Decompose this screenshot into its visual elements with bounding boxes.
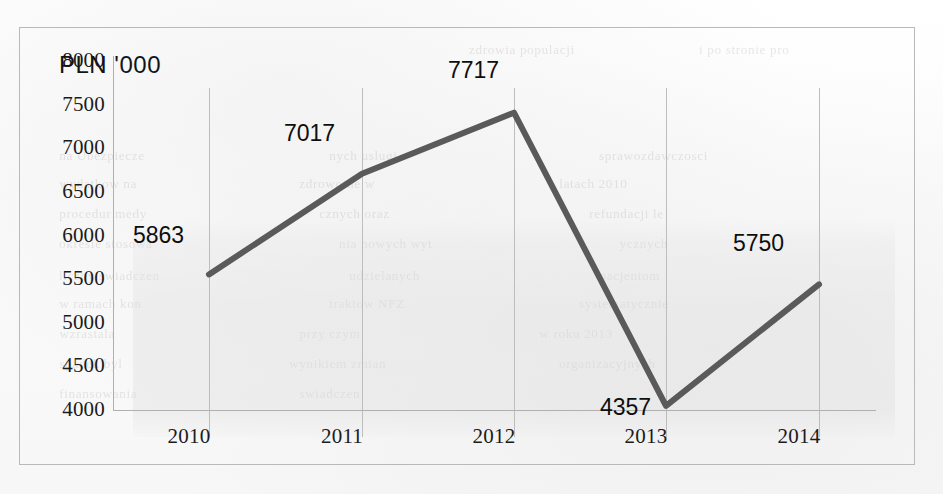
x-tick-label: 2010 (168, 424, 211, 449)
x-tick-label: 2013 (625, 424, 668, 449)
data-point-label: 4357 (600, 394, 651, 421)
y-tick-label: 7000 (19, 137, 105, 158)
data-point-label: 5863 (133, 222, 184, 249)
x-tick-label: 2014 (778, 424, 821, 449)
y-tick-label: 5500 (19, 268, 105, 289)
data-value-labels: 58637017771743575750 (113, 60, 875, 409)
data-point-label: 7717 (448, 57, 499, 84)
y-tick-label: 4000 (19, 399, 105, 420)
x-tick-label: 2011 (321, 424, 363, 449)
data-point-label: 7017 (284, 120, 335, 147)
x-axis-line (113, 410, 876, 411)
x-axis-tick-labels: 20102011201220132014 (113, 424, 875, 454)
y-tick-label: 7500 (19, 93, 105, 114)
y-tick-label: 6500 (19, 180, 105, 201)
y-axis-tick-labels: 800075007000650060005500500045004000 (17, 60, 105, 409)
y-tick-label: 5000 (19, 311, 105, 332)
axis-unit-title: PLN '000 (59, 51, 161, 79)
y-tick-label: 4500 (19, 355, 105, 376)
y-tick-label: 6000 (19, 224, 105, 245)
data-point-label: 5750 (733, 230, 784, 257)
x-tick-label: 2012 (473, 424, 516, 449)
